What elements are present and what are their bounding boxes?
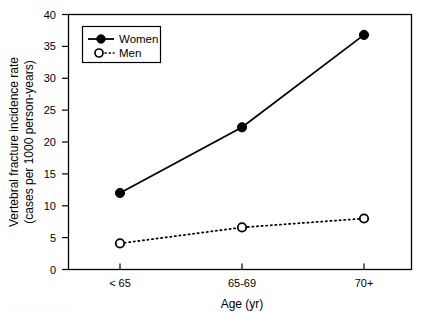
data-point-men-70plus bbox=[360, 214, 368, 222]
x-tick-label-70plus: 70+ bbox=[355, 277, 374, 289]
scan-artifact bbox=[8, 308, 72, 309]
y-axis-title-line1: Vertebral fracture incidence rate bbox=[7, 57, 21, 227]
figure-container: 40 35 30 25 20 15 10 5 0 < 65 65-69 70+ … bbox=[0, 0, 426, 314]
legend-label-women: Women bbox=[119, 33, 158, 45]
y-tick-label-15: 15 bbox=[44, 168, 56, 180]
data-point-women-lt65 bbox=[115, 188, 124, 197]
chart-background bbox=[0, 0, 426, 314]
y-tick-label-30: 30 bbox=[44, 72, 56, 84]
y-tick-label-5: 5 bbox=[50, 232, 56, 244]
data-point-men-lt65 bbox=[116, 239, 124, 247]
legend-marker-men bbox=[95, 49, 103, 57]
y-tick-label-10: 10 bbox=[44, 200, 56, 212]
x-tick-label-65-69: 65-69 bbox=[228, 277, 256, 289]
y-tick-label-35: 35 bbox=[44, 40, 56, 52]
data-point-women-65-69 bbox=[237, 123, 246, 132]
y-tick-label-40: 40 bbox=[44, 9, 56, 21]
data-point-men-65-69 bbox=[238, 223, 246, 231]
chart-legend: Women Men bbox=[83, 27, 161, 63]
data-point-women-70plus bbox=[359, 30, 368, 39]
x-tick-label-lt65: < 65 bbox=[109, 277, 131, 289]
x-axis-title: Age (yr) bbox=[221, 297, 264, 311]
y-axis-title-line2: (cases per 1000 person-years) bbox=[22, 60, 36, 223]
legend-label-men: Men bbox=[119, 47, 141, 59]
y-tick-label-25: 25 bbox=[44, 104, 56, 116]
legend-marker-women bbox=[97, 35, 105, 43]
vertebral-fracture-incidence-line-chart: 40 35 30 25 20 15 10 5 0 < 65 65-69 70+ … bbox=[0, 0, 426, 314]
y-tick-label-20: 20 bbox=[44, 136, 56, 148]
y-tick-label-0: 0 bbox=[50, 264, 56, 276]
